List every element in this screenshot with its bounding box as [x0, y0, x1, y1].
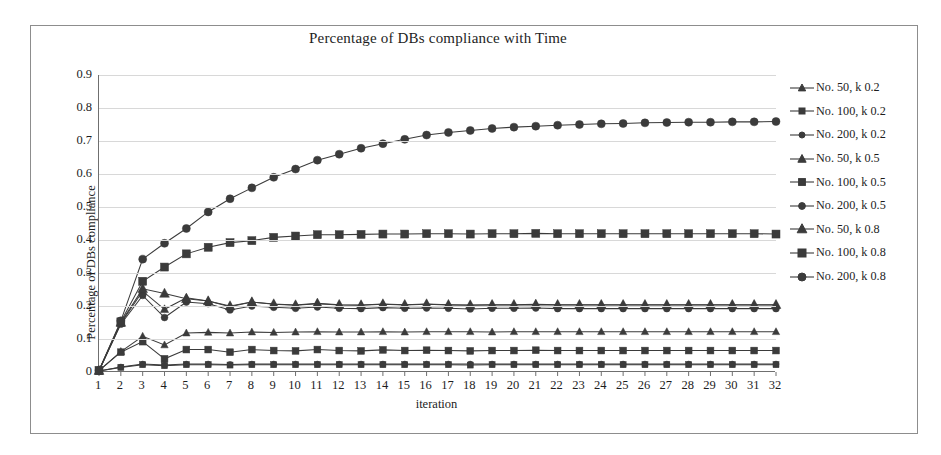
- series-marker: [662, 299, 672, 308]
- legend-item[interactable]: No. 100, k 0.2: [789, 100, 913, 124]
- series-marker: [487, 299, 497, 308]
- series-marker: [511, 347, 518, 354]
- legend-item[interactable]: No. 50, k 0.5: [789, 147, 913, 171]
- series-marker: [641, 328, 648, 335]
- series-marker: [162, 362, 168, 368]
- series-marker: [423, 230, 431, 238]
- series-marker: [292, 232, 300, 240]
- y-tick-label: 0.8: [58, 101, 92, 113]
- series-marker: [597, 120, 605, 128]
- x-tick-label: 25: [611, 378, 633, 393]
- series-marker: [335, 231, 343, 239]
- series-marker: [663, 119, 671, 127]
- x-tick-label: 5: [174, 378, 196, 393]
- series-marker: [204, 243, 212, 251]
- series-marker: [466, 126, 474, 134]
- x-tick-label: 16: [415, 378, 437, 393]
- series-marker: [335, 150, 343, 158]
- series-marker: [205, 346, 212, 353]
- x-tick-label: 27: [655, 378, 677, 393]
- series-marker: [139, 277, 147, 285]
- y-tick-label: 0.3: [58, 266, 92, 278]
- gridline: [99, 306, 776, 307]
- series-marker: [336, 361, 342, 367]
- legend-label: No. 200, k 0.2: [816, 127, 886, 142]
- series-marker: [248, 328, 255, 335]
- x-tick-label: 24: [589, 378, 611, 393]
- series-marker: [728, 118, 736, 126]
- series-marker: [424, 361, 430, 367]
- x-tick-label: 13: [349, 378, 371, 393]
- legend-marker-triangle-icon: [789, 222, 815, 236]
- legend-label: No. 50, k 0.5: [816, 151, 880, 166]
- series-marker: [248, 184, 256, 192]
- series-marker: [684, 299, 694, 308]
- series-marker: [729, 361, 735, 367]
- legend-label: No. 100, k 0.8: [816, 245, 886, 260]
- series-marker: [334, 299, 344, 308]
- series-marker: [423, 131, 431, 139]
- series-marker: [358, 361, 364, 367]
- series-marker: [401, 135, 409, 143]
- series-marker: [356, 300, 366, 309]
- series-marker: [555, 361, 561, 367]
- series-marker: [227, 361, 233, 367]
- series-marker: [358, 347, 365, 354]
- series-marker: [401, 230, 409, 238]
- series-marker: [510, 123, 518, 131]
- legend-marker-circle-icon: [789, 128, 815, 142]
- legend-item[interactable]: No. 50, k 0.8: [789, 218, 913, 242]
- legend-item[interactable]: No. 200, k 0.8: [789, 265, 913, 289]
- series-marker: [95, 366, 103, 374]
- series-marker: [642, 347, 649, 354]
- x-tick-label: 23: [567, 378, 589, 393]
- series-marker: [161, 355, 168, 362]
- series-marker: [576, 328, 583, 335]
- legend-item[interactable]: No. 50, k 0.2: [789, 76, 913, 100]
- figure-canvas: Percentage of DBs compliance with Time P…: [0, 0, 941, 455]
- series-marker: [467, 328, 474, 335]
- legend-label: No. 200, k 0.5: [816, 198, 886, 213]
- series-marker: [640, 299, 650, 308]
- series-marker: [620, 347, 627, 354]
- series-marker: [379, 328, 386, 335]
- legend-item[interactable]: No. 100, k 0.8: [789, 241, 913, 265]
- series-marker: [183, 346, 190, 353]
- y-axis-ticks: 0.90.80.70.60.50.40.30.20.10: [56, 75, 92, 372]
- series-marker: [313, 156, 321, 164]
- series-marker: [575, 299, 585, 308]
- y-tick-label: 0.6: [58, 167, 92, 179]
- series-marker: [751, 347, 758, 354]
- series-marker: [402, 361, 408, 367]
- legend-label: No. 50, k 0.8: [816, 222, 880, 237]
- series-marker: [532, 122, 540, 130]
- data-series: [95, 118, 780, 375]
- series-canvas: [99, 75, 776, 372]
- chart-title: Percentage of DBs compliance with Time: [98, 30, 778, 47]
- y-axis-title-host: Percentage of DBs compliance: [38, 105, 58, 345]
- series-marker: [532, 328, 539, 335]
- series-marker: [400, 299, 410, 308]
- series-marker: [336, 347, 343, 354]
- legend-marker-circle-icon: [789, 199, 815, 213]
- y-tick-label: 0.2: [58, 299, 92, 311]
- series-marker: [750, 118, 758, 126]
- legend-marker-triangle-icon: [789, 152, 815, 166]
- series-marker: [205, 361, 211, 367]
- x-tick-label: 21: [524, 378, 546, 393]
- legend-item[interactable]: No. 100, k 0.5: [789, 170, 913, 194]
- series-marker: [270, 347, 277, 354]
- series-marker: [401, 347, 408, 354]
- series-marker: [685, 118, 693, 126]
- x-tick-label: 26: [633, 378, 655, 393]
- x-tick-label: 11: [305, 378, 327, 393]
- series-marker: [685, 328, 692, 335]
- legend-marker-square-icon: [789, 246, 815, 260]
- series-marker: [532, 347, 539, 354]
- x-tick-label: 2: [109, 378, 131, 393]
- series-marker: [729, 328, 736, 335]
- series-marker: [663, 328, 670, 335]
- legend-item[interactable]: No. 200, k 0.2: [789, 123, 913, 147]
- series-marker: [489, 361, 495, 367]
- legend-item[interactable]: No. 200, k 0.5: [789, 194, 913, 218]
